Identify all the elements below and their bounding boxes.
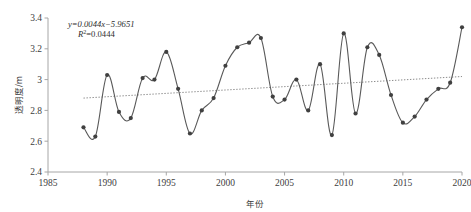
data-point-marker (176, 87, 180, 91)
data-point-marker (365, 45, 369, 49)
data-point-marker (117, 110, 121, 114)
data-point-marker (342, 31, 346, 35)
y-axis-title: 透明度/m (14, 76, 24, 114)
data-point-marker (223, 64, 227, 68)
x-axis-tick-label: 2005 (275, 178, 294, 188)
data-point-marker (460, 25, 464, 29)
data-point-marker (318, 62, 322, 66)
x-axis-tick-label: 1990 (98, 178, 117, 188)
x-axis-tick-label: 2010 (334, 178, 353, 188)
data-point-marker (93, 134, 97, 138)
x-axis-tick-label: 1995 (157, 178, 176, 188)
data-point-marker (164, 50, 168, 54)
data-point-marker (353, 111, 357, 115)
data-point-marker (294, 78, 298, 82)
data-point-marker (424, 98, 428, 102)
data-point-marker (212, 96, 216, 100)
data-point-marker (235, 45, 239, 49)
data-point-marker (413, 114, 417, 118)
y-axis-tick-label: 3.4 (30, 13, 42, 23)
data-point-marker (436, 87, 440, 91)
data-point-marker (247, 41, 251, 45)
data-point-marker (282, 98, 286, 102)
data-point-marker (200, 108, 204, 112)
chart-canvas: 2.42.62.833.23.4198519901995200020052010… (0, 0, 471, 212)
data-point-marker (188, 131, 192, 135)
data-point-marker (377, 53, 381, 57)
data-point-marker (259, 36, 263, 40)
data-point-marker (81, 125, 85, 129)
data-point-marker (330, 133, 334, 137)
r-squared-label: R2=0.0444 (77, 29, 115, 39)
x-axis-tick-label: 2000 (216, 178, 235, 188)
data-point-marker (105, 73, 109, 77)
x-axis-title: 年份 (246, 199, 264, 209)
y-axis-tick-label: 3 (37, 75, 42, 85)
data-point-marker (401, 121, 405, 125)
data-point-marker (448, 81, 452, 85)
regression-equation-label: y=0.0044x−5.9651 (67, 19, 135, 29)
y-axis-tick-label: 3.2 (30, 44, 42, 54)
data-point-marker (389, 93, 393, 97)
transparency-trend-chart: 2.42.62.833.23.4198519901995200020052010… (0, 0, 471, 212)
data-point-marker (152, 78, 156, 82)
data-point-marker (129, 116, 133, 120)
x-axis-tick-label: 1985 (39, 178, 58, 188)
y-axis-tick-label: 2.8 (30, 106, 42, 116)
x-axis-tick-label: 2015 (393, 178, 412, 188)
data-point-marker (306, 108, 310, 112)
y-axis-tick-label: 2.4 (30, 167, 42, 177)
data-point-marker (141, 76, 145, 80)
y-axis-tick-label: 2.6 (30, 137, 42, 147)
x-axis-tick-label: 2020 (453, 178, 471, 188)
data-point-marker (271, 94, 275, 98)
